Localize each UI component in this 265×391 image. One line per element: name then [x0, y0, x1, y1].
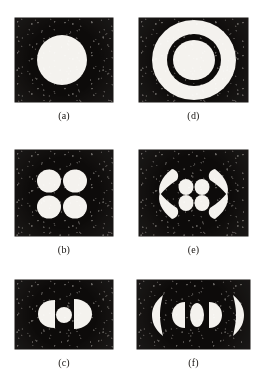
panel-e-graphic [139, 150, 248, 236]
caption-e: (e) [139, 244, 248, 256]
image-panel-c [15, 280, 113, 349]
caption-a: (a) [15, 110, 113, 122]
caption-c: (c) [15, 357, 113, 369]
image-panel-e [139, 150, 248, 236]
panel-a-graphic [15, 18, 113, 102]
figure-row-2: (b) (e) [0, 133, 265, 260]
caption-f: (f) [137, 357, 250, 369]
caption-b: (b) [15, 244, 113, 256]
panel-b-graphic [15, 150, 113, 236]
panel-d-graphic [139, 18, 248, 102]
image-panel-a [15, 18, 113, 102]
image-panel-b [15, 150, 113, 236]
caption-d: (d) [139, 110, 248, 122]
panel-f-graphic [137, 280, 250, 349]
image-panel-d [139, 18, 248, 102]
panel-c-graphic [15, 280, 113, 349]
figure-plate: (a) (d) [0, 0, 265, 391]
figure-row-3: (c) (f) [0, 260, 265, 391]
figure-row-1: (a) (d) [0, 0, 265, 133]
image-panel-f [137, 280, 250, 349]
